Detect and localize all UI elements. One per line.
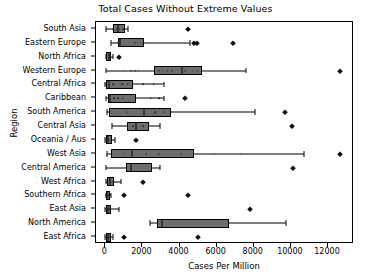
data-point [109, 236, 111, 238]
x-tick-mark [290, 243, 291, 247]
y-tick-mark [91, 180, 95, 181]
x-tick-mark [104, 243, 105, 247]
y-tick-mark [91, 27, 95, 28]
x-tick-label: 10000 [277, 247, 302, 256]
x-tick-label: 8000 [243, 247, 263, 256]
y-tick-mark [91, 138, 95, 139]
y-tick-mark [91, 208, 95, 209]
x-tick-label: 12000 [314, 247, 339, 256]
x-tick-mark [141, 243, 142, 247]
y-tick-mark [91, 55, 95, 56]
x-tick-mark [179, 243, 180, 247]
box-plot-series [96, 22, 352, 242]
y-tick-mark [91, 83, 95, 84]
x-axis-title: Cases Per Million [95, 261, 353, 271]
x-tick-label: 0 [102, 247, 107, 256]
chart-figure: Total Cases Without Extreme Values Regio… [0, 0, 371, 280]
y-tick-mark [91, 111, 95, 112]
plot-area [95, 21, 353, 243]
box-east-africa [96, 22, 352, 242]
y-axis-ticks [0, 21, 95, 243]
chart-title: Total Cases Without Extreme Values [0, 3, 371, 14]
y-tick-mark [91, 125, 95, 126]
y-tick-mark [91, 41, 95, 42]
y-tick-mark [91, 69, 95, 70]
x-tick-label: 2000 [131, 247, 151, 256]
y-tick-mark [91, 236, 95, 237]
y-tick-mark [91, 166, 95, 167]
y-tick-mark [91, 97, 95, 98]
y-tick-mark [91, 194, 95, 195]
x-tick-label: 6000 [205, 247, 225, 256]
y-tick-mark [91, 152, 95, 153]
outlier-marker [122, 235, 127, 240]
x-tick-mark [216, 243, 217, 247]
cap-high [113, 234, 114, 239]
outlier-marker [195, 235, 200, 240]
x-axis-tick-labels: 020004000600080001000012000 [95, 247, 353, 259]
x-tick-label: 4000 [168, 247, 188, 256]
y-tick-mark [91, 222, 95, 223]
x-tick-mark [327, 243, 328, 247]
x-tick-mark [253, 243, 254, 247]
